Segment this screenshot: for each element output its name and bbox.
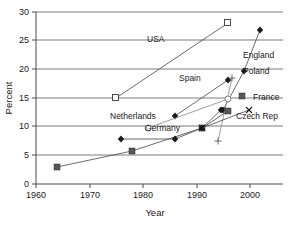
x-tick-1960: 1960 [26,190,46,200]
label-england: England [243,50,274,60]
y-tick-25: 25 [19,35,29,45]
label-czech-rep: Czech Rep [236,111,278,121]
marker-filled-square [225,108,231,114]
y-tick-0: 0 [24,179,29,189]
legend-markers [239,93,245,99]
label-usa: USA [147,34,165,44]
series-annotations: USA England Spain Poland France Netherla… [110,34,280,133]
label-spain: Spain [179,73,201,83]
x-tick-1980: 1980 [133,190,153,200]
marker-open-circle [225,96,231,102]
marker-open-square [113,95,119,101]
marker-filled-diamond [257,27,263,34]
x-axis-tick-labels: 1960 1970 1980 1990 2000 [26,190,260,200]
x-tick-1970: 1970 [80,190,100,200]
chart-container: 30 25 20 15 10 5 0 1960 1970 1980 1990 2… [0,0,291,227]
series-usa [113,20,231,101]
y-tick-5: 5 [24,150,29,160]
y-tick-10: 10 [19,121,29,131]
label-poland: Poland [243,66,270,76]
y-tick-20: 20 [19,64,29,74]
label-netherlands: Netherlands [110,111,156,121]
marker-open-square [225,20,231,26]
y-axis-title: Percent [3,81,14,114]
marker-filled-diamond [118,136,124,143]
x-axis-title: Year [145,207,164,218]
y-tick-15: 15 [19,93,29,103]
x-tick-2000: 2000 [240,190,260,200]
legend-marker-filled-square-france [239,93,245,99]
y-axis-tick-labels: 30 25 20 15 10 5 0 [19,7,29,189]
y-tick-30: 30 [19,7,29,17]
marker-filled-square [129,148,135,154]
label-france: France [253,92,280,102]
marker-filled-square [54,164,60,170]
marker-filled-diamond [172,136,178,143]
label-germany: Germany [145,123,181,133]
line-chart: 30 25 20 15 10 5 0 1960 1970 1980 1990 2… [0,0,291,227]
x-tick-1990: 1990 [187,190,207,200]
marker-plus [215,138,222,145]
